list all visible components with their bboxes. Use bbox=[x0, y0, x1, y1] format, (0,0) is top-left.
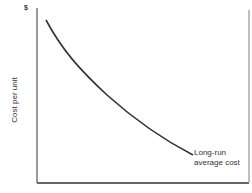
y-axis-dollar-symbol: $ bbox=[24, 4, 28, 11]
curve-annotation: Long-run average cost bbox=[194, 148, 240, 168]
chart: $ Cost per unit Long-run average cost bbox=[0, 0, 252, 193]
y-axis-label: Cost per unit bbox=[10, 77, 19, 122]
annotation-line-1: Long-run bbox=[194, 148, 240, 158]
annotation-line-2: average cost bbox=[194, 158, 240, 168]
long-run-average-cost-curve bbox=[46, 20, 193, 155]
